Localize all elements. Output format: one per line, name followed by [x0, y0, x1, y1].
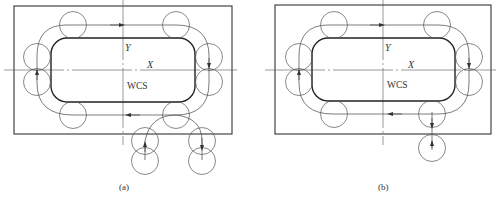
y-axis-label: Y — [385, 42, 392, 53]
wcs-label: WCS — [127, 81, 148, 91]
part-contour — [312, 38, 455, 101]
caption-a: (a) — [119, 182, 129, 192]
x-axis-label: X — [146, 59, 154, 70]
figure-b: Y X WCS (b) — [265, 0, 496, 192]
tool-circles — [286, 12, 483, 162]
wcs-label: WCS — [387, 80, 408, 90]
x-axis-label: X — [407, 59, 415, 70]
figure-a: Y X WCS (a) — [4, 0, 237, 192]
lead-in-path — [145, 115, 176, 160]
diagram-canvas: Y X WCS (a) Y X WCS (b — [0, 0, 496, 199]
y-axis-label: Y — [125, 42, 132, 53]
caption-b: (b) — [378, 182, 389, 192]
